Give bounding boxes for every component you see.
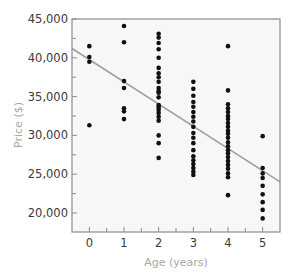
y-axis-ticks: 20,00025,00030,00035,00040,00045,000	[28, 12, 77, 232]
data-point	[260, 166, 265, 171]
data-point	[260, 171, 265, 176]
data-point	[156, 156, 161, 161]
data-point	[191, 114, 196, 119]
data-point	[156, 141, 161, 146]
data-point	[156, 90, 161, 95]
data-point	[191, 125, 196, 130]
data-point	[122, 40, 127, 45]
data-point	[260, 184, 265, 189]
data-point	[156, 55, 161, 60]
x-axis-title: Age (years)	[144, 256, 208, 269]
data-point	[191, 110, 196, 115]
data-point	[191, 119, 196, 124]
data-point	[260, 192, 265, 197]
data-point	[191, 87, 196, 92]
scatter-chart: 20,00025,00030,00035,00040,00045,000 012…	[0, 0, 296, 276]
y-tick-label: 25,000	[28, 167, 68, 181]
data-point	[191, 104, 196, 109]
data-point	[122, 24, 127, 29]
x-tick-label: 1	[120, 236, 127, 250]
data-point	[260, 176, 265, 181]
data-point	[156, 47, 161, 52]
x-tick-label: 2	[155, 236, 162, 250]
data-point	[191, 135, 196, 140]
y-tick-label: 40,000	[28, 51, 68, 65]
data-point	[156, 66, 161, 71]
data-point	[191, 173, 196, 178]
data-point	[191, 131, 196, 136]
data-point	[191, 141, 196, 146]
data-point	[87, 59, 92, 64]
data-point	[87, 123, 92, 128]
y-tick-label: 35,000	[28, 90, 68, 104]
data-point	[226, 193, 231, 198]
data-point	[260, 208, 265, 213]
data-point	[191, 94, 196, 99]
x-tick-label: 5	[259, 236, 266, 250]
y-tick-label: 20,000	[28, 206, 68, 220]
data-point	[191, 100, 196, 105]
data-point	[260, 216, 265, 221]
data-point	[156, 133, 161, 138]
data-point	[156, 80, 161, 85]
x-tick-label: 3	[190, 236, 197, 250]
plot-area	[72, 19, 280, 232]
data-point	[156, 95, 161, 100]
y-tick-label: 45,000	[28, 12, 68, 26]
data-point	[191, 148, 196, 153]
data-point	[87, 44, 92, 49]
data-point	[122, 86, 127, 91]
data-point	[226, 135, 231, 140]
data-point	[122, 109, 127, 114]
data-point	[191, 80, 196, 85]
y-axis-title: Price ($)	[12, 102, 25, 148]
data-point	[156, 35, 161, 40]
data-point	[226, 88, 231, 93]
data-point	[156, 75, 161, 80]
data-point	[156, 41, 161, 46]
x-tick-label: 0	[86, 236, 93, 250]
data-point	[156, 118, 161, 123]
data-point	[226, 166, 231, 171]
data-point	[87, 55, 92, 60]
data-point	[226, 175, 231, 180]
data-point	[260, 200, 265, 205]
x-tick-label: 4	[224, 236, 231, 250]
data-point	[260, 134, 265, 139]
y-tick-label: 30,000	[28, 128, 68, 142]
data-point	[122, 79, 127, 84]
data-point	[122, 117, 127, 122]
data-point	[226, 44, 231, 49]
